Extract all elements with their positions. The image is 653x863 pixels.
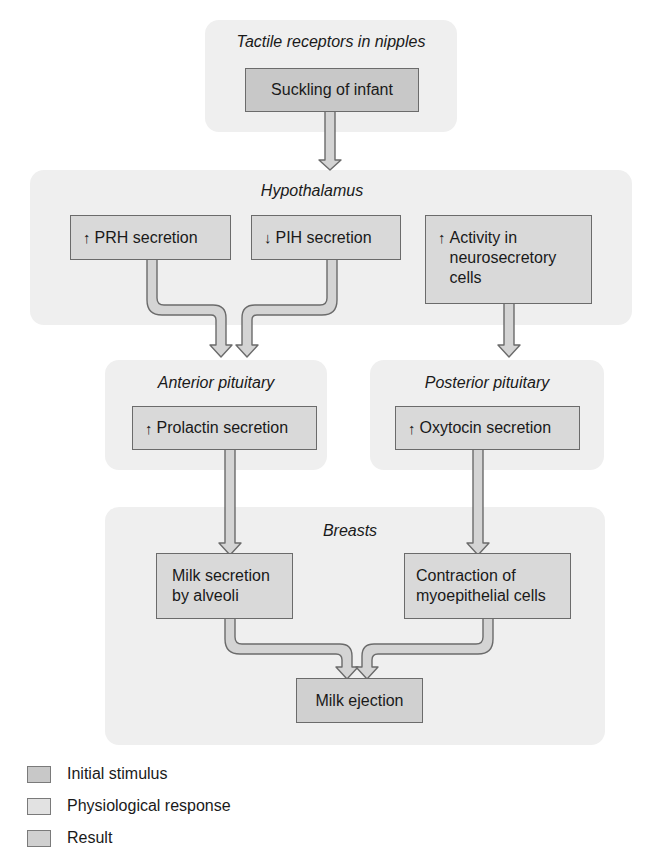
legend-label: Result xyxy=(67,829,112,847)
up-arrow-icon: ↑ xyxy=(83,229,91,246)
node-suckling-of-infant: Suckling of infant xyxy=(245,68,419,112)
panel-title-anterior: Anterior pituitary xyxy=(105,374,327,392)
legend: Initial stimulus Physiological response … xyxy=(27,758,231,854)
panel-title-tactile: Tactile receptors in nipples xyxy=(205,33,457,51)
node-oxytocin-secretion: ↑ Oxytocin secretion xyxy=(395,406,580,450)
legend-item-physiological-response: Physiological response xyxy=(27,790,231,822)
legend-item-result: Result xyxy=(27,822,231,854)
legend-label: Physiological response xyxy=(67,797,231,815)
node-label: Oxytocin secretion xyxy=(420,418,552,438)
node-pih-secretion: ↓ PIH secretion xyxy=(251,215,401,260)
node-label: Contraction of myoepithelial cells xyxy=(416,566,546,606)
down-arrow-icon: ↓ xyxy=(264,229,272,246)
node-prh-secretion: ↑ PRH secretion xyxy=(70,215,231,260)
swatch-result xyxy=(27,830,51,847)
node-label: Milk ejection xyxy=(315,691,403,711)
up-arrow-icon: ↑ xyxy=(408,420,416,437)
legend-item-initial-stimulus: Initial stimulus xyxy=(27,758,231,790)
up-arrow-icon: ↑ xyxy=(438,228,446,248)
node-contraction-of-myoepithelial-cells: Contraction of myoepithelial cells xyxy=(404,553,571,619)
panel-title-posterior: Posterior pituitary xyxy=(370,374,604,392)
node-label: Suckling of infant xyxy=(271,80,393,100)
node-label: Activity in neurosecretory cells xyxy=(450,228,557,288)
node-milk-ejection: Milk ejection xyxy=(296,678,423,723)
swatch-initial-stimulus xyxy=(27,766,51,783)
node-prolactin-secretion: ↑ Prolactin secretion xyxy=(132,406,317,450)
swatch-physiological-response xyxy=(27,798,51,815)
legend-label: Initial stimulus xyxy=(67,765,167,783)
node-label: PRH secretion xyxy=(95,228,198,248)
panel-title-hypothalamus: Hypothalamus xyxy=(0,182,632,200)
node-activity-neurosecretory-cells: ↑ Activity in neurosecretory cells xyxy=(425,215,592,304)
node-label: Prolactin secretion xyxy=(157,418,289,438)
node-label: PIH secretion xyxy=(276,228,372,248)
node-label: Milk secretion by alveoli xyxy=(172,566,270,606)
panel-title-breasts: Breasts xyxy=(95,522,605,540)
node-milk-secretion-by-alveoli: Milk secretion by alveoli xyxy=(156,553,293,619)
up-arrow-icon: ↑ xyxy=(145,420,153,437)
